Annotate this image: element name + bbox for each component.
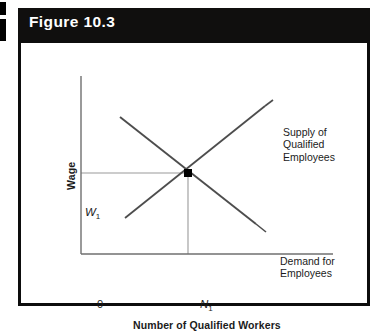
- x-tick-label-n1: N1: [200, 298, 213, 314]
- y-tick-w1-subscript: 1: [96, 212, 100, 221]
- demand-curve-annotation: Demand for Employees: [280, 255, 335, 280]
- figure-plot-frame: Wage W1 0 N1 Number of Qualified Workers…: [18, 40, 370, 306]
- supply-annotation-line-2: Qualified: [283, 138, 335, 150]
- demand-annotation-line-2: Employees: [280, 267, 335, 279]
- x-tick-label-origin: 0: [97, 298, 103, 311]
- page-edge-artifact: [0, 2, 7, 46]
- figure-title-band: Figure 10.3: [18, 8, 370, 40]
- page-edge-mark-top: [0, 2, 6, 15]
- figure-container: Figure 10.3 Wage W1: [18, 8, 370, 306]
- supply-curve: [125, 106, 265, 218]
- figure-title: Figure 10.3: [29, 13, 115, 31]
- demand-annotation-line-1: Demand for: [280, 255, 335, 267]
- y-tick-label-w1: W1: [85, 206, 100, 222]
- x-axis-title: Number of Qualified Workers: [133, 319, 281, 331]
- supply-curve-annotation: Supply of Qualified Employees: [283, 126, 335, 163]
- supply-leader-line: [265, 100, 273, 106]
- supply-annotation-line-1: Supply of: [283, 126, 335, 138]
- y-tick-w1-base: W: [85, 206, 96, 218]
- supply-annotation-line-3: Employees: [283, 151, 335, 163]
- x-tick-n1-subscript: 1: [208, 304, 212, 313]
- page-edge-mark-bottom: [0, 19, 6, 41]
- equilibrium-marker: [184, 169, 192, 177]
- y-axis-title: Wage: [65, 162, 77, 190]
- demand-leader-line: [256, 224, 266, 232]
